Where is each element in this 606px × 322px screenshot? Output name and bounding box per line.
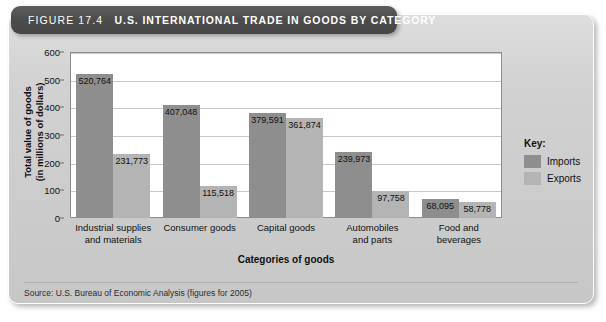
x-axis-category-line: Automobiles	[329, 222, 415, 234]
figure-title-banner: FIGURE 17.4 U.S. INTERNATIONAL TRADE IN …	[11, 6, 397, 34]
bar-value-label: 68,095	[427, 201, 455, 211]
bar-exports[interactable]: 361,874	[286, 118, 323, 218]
x-axis-category-line: and materials	[70, 234, 156, 246]
figure-title-text: FIGURE 17.4 U.S. INTERNATIONAL TRADE IN …	[11, 14, 436, 26]
x-axis-category-line: Industrial supplies	[70, 222, 156, 234]
x-axis-category-line: Capital goods	[243, 222, 329, 234]
y-axis-tick-label: 400	[44, 102, 60, 113]
source-divider	[24, 282, 578, 283]
bar-imports[interactable]: 379,591	[249, 113, 286, 218]
x-axis-category-line: Consumer goods	[156, 222, 242, 234]
x-axis-category-line: and parts	[329, 234, 415, 246]
x-axis-labels: Industrial suppliesand materialsConsumer…	[70, 222, 502, 245]
y-axis-tick-mark	[60, 79, 64, 80]
bar-group: 520,764231,773	[70, 52, 156, 218]
legend-title: Key:	[524, 138, 581, 149]
y-axis-tick-label: 500	[44, 74, 60, 85]
y-axis-tick-mark	[60, 218, 64, 219]
y-axis-tick-label: 300	[44, 130, 60, 141]
y-axis-tick-mark	[60, 107, 64, 108]
bar-value-label: 407,048	[165, 107, 198, 117]
x-axis-category-label: Consumer goods	[156, 222, 242, 245]
bar-exports[interactable]: 58,778	[459, 202, 496, 218]
bar-imports[interactable]: 520,764	[76, 74, 113, 218]
chart-legend: Key: ImportsExports	[524, 138, 581, 189]
bar-value-label: 58,778	[464, 204, 492, 214]
y-axis-tick-label: 200	[44, 157, 60, 168]
bar-imports[interactable]: 239,973	[335, 152, 372, 218]
bar-value-label: 361,874	[288, 120, 321, 130]
legend-swatch-icon	[524, 155, 541, 168]
y-axis-tick-mark	[60, 135, 64, 136]
x-axis-title: Categories of goods	[70, 254, 502, 265]
legend-entry[interactable]: Exports	[524, 172, 581, 185]
bar-exports[interactable]: 231,773	[113, 154, 150, 218]
y-axis-tick-label: 600	[44, 47, 60, 58]
bar-value-label: 379,591	[251, 115, 284, 125]
bar-exports[interactable]: 115,518	[200, 186, 237, 218]
bar-exports[interactable]: 97,758	[372, 191, 409, 218]
bar-value-label: 231,773	[115, 156, 148, 166]
bar-group: 239,97397,758	[329, 52, 415, 218]
bar-groups: 520,764231,773407,048115,518379,591361,8…	[70, 52, 502, 218]
bar-value-label: 520,764	[78, 76, 111, 86]
chart-body: Total value of goods (in millions of dol…	[8, 36, 594, 276]
bar-imports[interactable]: 407,048	[163, 105, 200, 218]
bar-group: 407,048115,518	[156, 52, 242, 218]
bar-group: 379,591361,874	[243, 52, 329, 218]
x-axis-category-label: Capital goods	[243, 222, 329, 245]
x-axis-category-line: beverages	[416, 234, 502, 246]
legend-entry-label: Exports	[547, 173, 581, 184]
source-note: Source: U.S. Bureau of Economic Analysis…	[24, 288, 252, 298]
bar-value-label: 97,758	[377, 193, 405, 203]
bar-value-label: 239,973	[338, 154, 371, 164]
y-axis-ticks: 0100200300400500600	[28, 52, 64, 218]
gridline	[71, 218, 501, 219]
legend-entry[interactable]: Imports	[524, 155, 581, 168]
figure-root: FIGURE 17.4 U.S. INTERNATIONAL TRADE IN …	[0, 0, 606, 322]
x-axis-category-line: Food and	[416, 222, 502, 234]
bar-group: 68,09558,778	[416, 52, 502, 218]
y-axis-tick-mark	[60, 52, 64, 53]
bar-imports[interactable]: 68,095	[422, 199, 459, 218]
y-axis-tick-label: 100	[44, 185, 60, 196]
figure-number: FIGURE 17.4	[28, 14, 103, 26]
x-axis-category-label: Automobilesand parts	[329, 222, 415, 245]
x-axis-category-label: Food andbeverages	[416, 222, 502, 245]
x-axis-category-label: Industrial suppliesand materials	[70, 222, 156, 245]
bar-value-label: 115,518	[202, 188, 234, 198]
legend-entries: ImportsExports	[524, 155, 581, 185]
y-axis-tick-mark	[60, 162, 64, 163]
page-title: U.S. INTERNATIONAL TRADE IN GOODS BY CAT…	[115, 14, 437, 26]
y-axis-tick-mark	[60, 190, 64, 191]
legend-swatch-icon	[524, 172, 541, 185]
legend-entry-label: Imports	[547, 156, 580, 167]
